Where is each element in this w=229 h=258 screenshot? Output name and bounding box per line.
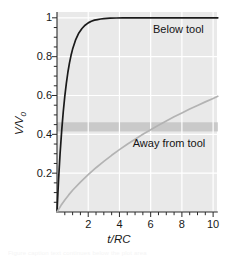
threshold-band: [57, 122, 218, 131]
away-from-tool-label: Away from tool: [133, 138, 206, 149]
threshold-band-group: [57, 122, 218, 131]
y-tick-label: 0.2: [28, 168, 52, 179]
x-axis-title: t/RC: [107, 234, 130, 246]
below-tool-label: Below tool: [153, 24, 204, 35]
x-tick-label: 10: [201, 219, 225, 230]
y-axis-title-subscript: 0: [19, 112, 28, 116]
y-axis-title-main: V/V: [13, 116, 25, 135]
y-tick-label: 0.8: [28, 51, 52, 62]
x-tick-label: 4: [107, 219, 131, 230]
x-tick-label: 8: [170, 219, 194, 230]
x-tick-label: 2: [76, 219, 100, 230]
y-tick-label: 0.6: [28, 90, 52, 101]
x-tick-label: 6: [139, 219, 163, 230]
y-tick-label: 0.4: [28, 129, 52, 140]
figure-container: 0.20.40.60.81 246810 V/V0 t/RC Below too…: [0, 0, 229, 258]
y-tick-label: 1: [28, 12, 52, 23]
y-axis-title: V/V0: [14, 112, 28, 135]
figure-caption: Figure caption text continues below the …: [8, 250, 223, 257]
